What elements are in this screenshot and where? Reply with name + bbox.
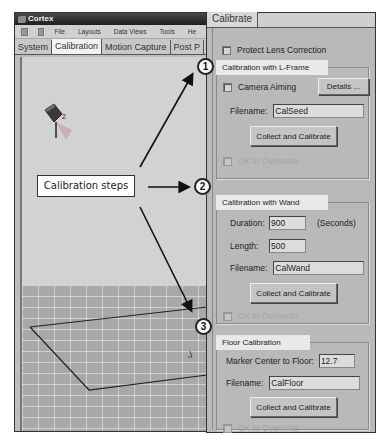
calibration-steps-callout: Calibration steps xyxy=(37,175,135,197)
step-marker-3: 3 xyxy=(195,318,212,335)
step-marker-2: 2 xyxy=(194,178,211,195)
step-marker-1: 1 xyxy=(197,58,214,75)
arrow-to-step-3 xyxy=(140,207,191,310)
annotation-arrows xyxy=(0,0,391,446)
arrow-to-step-1 xyxy=(140,75,192,167)
